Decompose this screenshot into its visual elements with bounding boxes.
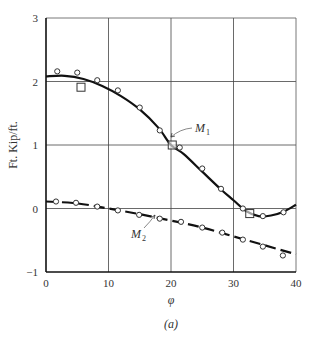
circle-marker (75, 70, 80, 75)
circle-marker (260, 244, 265, 249)
circle-marker (220, 230, 225, 235)
circle-marker (240, 237, 245, 242)
x-tick-label: 20 (166, 277, 178, 289)
circle-marker (73, 200, 78, 205)
square-marker (246, 210, 254, 218)
circle-marker (95, 204, 100, 209)
m1-label-subscript: 1 (206, 128, 210, 137)
y-tick-label: −1 (26, 266, 38, 278)
circle-marker (280, 253, 285, 258)
square-marker (168, 141, 176, 149)
circle-marker (137, 105, 142, 110)
square-marker (77, 83, 85, 91)
y-axis-ticks: −10123 (26, 12, 38, 278)
circle-marker (260, 214, 265, 219)
circle-marker (157, 128, 162, 133)
y-tick-label: 2 (33, 76, 39, 88)
y-tick-label: 0 (33, 203, 39, 215)
circle-marker (240, 206, 245, 211)
circle-marker (281, 210, 286, 215)
x-tick-label: 10 (103, 277, 115, 289)
x-tick-label: 40 (291, 277, 303, 289)
circle-marker (177, 145, 182, 150)
circle-marker (115, 88, 120, 93)
y-axis-label: Ft. Kip/ft. (6, 121, 20, 169)
m2-label: M (130, 227, 142, 241)
circle-marker (55, 69, 60, 74)
data-markers (53, 69, 286, 258)
circle-marker (157, 216, 162, 221)
circle-marker (178, 219, 183, 224)
m1-leader-line (171, 128, 192, 137)
m1-label: M (194, 121, 206, 135)
circle-marker (53, 199, 58, 204)
figure-caption: (a) (164, 317, 178, 331)
circle-marker (95, 78, 100, 83)
circle-marker (137, 212, 142, 217)
circle-marker (218, 186, 223, 191)
m2-label-subscript: 2 (142, 234, 146, 243)
circle-marker (200, 225, 205, 230)
curve-labels: M1M2 (130, 121, 210, 243)
circle-marker (200, 166, 205, 171)
y-tick-label: 1 (33, 139, 39, 151)
x-axis-ticks: 010203040 (43, 277, 302, 289)
x-tick-label: 0 (43, 277, 49, 289)
chart: −10123 010203040 M1M2 Ft. Kip/ft. φ (a) (0, 0, 313, 341)
circle-marker (115, 208, 120, 213)
y-tick-label: 3 (33, 12, 39, 24)
x-tick-label: 30 (228, 277, 240, 289)
x-axis-label: φ (168, 293, 175, 307)
